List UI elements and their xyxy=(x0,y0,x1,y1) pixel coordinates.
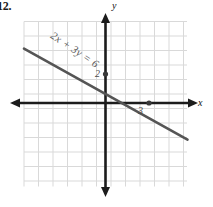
y-intercept-point xyxy=(103,71,108,76)
x-intercept-label: 3 xyxy=(138,105,143,116)
graph-figure: 12. xyxy=(0,0,213,207)
coordinate-plane xyxy=(0,0,213,207)
y-axis-label: y xyxy=(112,0,116,11)
x-axis-label: x xyxy=(198,97,202,108)
x-intercept-point xyxy=(146,100,151,105)
y-axis xyxy=(101,13,110,197)
y-intercept-label: 2 xyxy=(95,68,100,79)
